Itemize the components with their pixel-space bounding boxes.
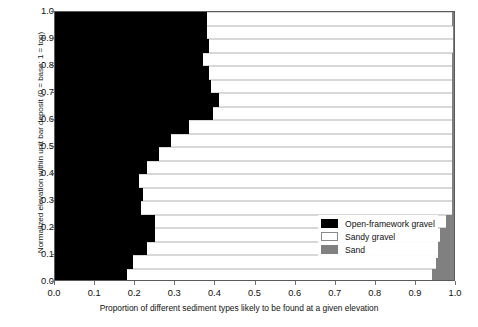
bar-row [55,53,454,67]
x-tick-label: 0.0 [32,288,76,298]
bar-row [55,120,454,134]
bar-segment-sandy-gravel [209,39,453,53]
bar-segment-open-framework-gravel [55,107,213,121]
legend-item-label: Open-framework gravel [345,219,435,229]
bar-row [55,201,454,215]
x-tick-label: 1.0 [433,288,477,298]
bar-segment-sandy-gravel [207,12,452,26]
bar-segment-sand [452,161,454,175]
bar-segment-sand [452,201,454,215]
y-tick-label: 0.0 [14,276,54,286]
bar-segment-open-framework-gravel [55,120,189,134]
bar-segment-sand [452,134,454,148]
bar-segment-sand [453,26,454,40]
bar-segment-sand [452,93,454,107]
x-axis-label: Proportion of different sediment types l… [0,303,478,313]
legend-swatch-icon [321,232,338,241]
bar-row [55,174,454,188]
bar-segment-open-framework-gravel [55,93,219,107]
bar-segment-sandy-gravel [213,107,452,121]
bar-segment-sand [452,188,454,202]
x-tick-mark [335,281,336,285]
bar-segment-sandy-gravel [139,174,452,188]
y-tick-label: 0.4 [14,168,54,178]
bar-segment-open-framework-gravel [55,134,171,148]
bar-segment-open-framework-gravel [55,39,209,53]
bar-segment-open-framework-gravel [55,242,147,256]
bar-segment-open-framework-gravel [55,161,147,175]
bar-segment-sand [452,107,454,121]
x-tick-mark [174,281,175,285]
bar-row [55,107,454,121]
bar-segment-sandy-gravel [219,93,452,107]
x-tick-mark [214,281,215,285]
bar-segment-sandy-gravel [203,53,452,67]
bar-segment-sandy-gravel [127,269,432,282]
bar-segment-open-framework-gravel [55,188,143,202]
x-tick-label: 0.8 [353,288,397,298]
y-tick-label: 0.6 [14,114,54,124]
bar-segment-open-framework-gravel [55,12,207,26]
x-tick-mark [134,281,135,285]
x-tick-mark [375,281,376,285]
bar-segment-sandy-gravel [207,26,453,40]
x-tick-mark [94,281,95,285]
bar-row [55,269,454,282]
x-tick-label: 0.4 [192,288,236,298]
bar-segment-open-framework-gravel [55,26,207,40]
bar-segment-sand [452,53,454,67]
x-tick-mark [455,281,456,285]
bar-segment-open-framework-gravel [55,269,127,282]
bar-segment-sand [452,12,454,26]
legend-item-label: Sand [345,245,365,255]
legend-swatch-icon [321,245,338,254]
y-tick-label: 0.3 [14,195,54,205]
y-tick-label: 0.2 [14,222,54,232]
bar-segment-open-framework-gravel [55,53,203,67]
legend-item: Sand [321,243,435,256]
bar-segment-sandy-gravel [209,66,452,80]
bar-row [55,39,454,53]
bar-row [55,80,454,94]
bar-segment-sand [440,228,454,242]
bar-segment-sand [452,120,454,134]
x-tick-label: 0.2 [112,288,156,298]
chart-legend: Open-framework gravelSandy gravelSand [318,215,438,258]
x-tick-label: 0.5 [233,288,277,298]
bar-segment-sandy-gravel [159,147,452,161]
bar-row [55,66,454,80]
bar-segment-sand [453,39,454,53]
y-tick-label: 0.5 [14,141,54,151]
bar-row [55,26,454,40]
x-tick-label: 0.6 [273,288,317,298]
y-tick-label: 1.0 [14,6,54,16]
bar-row [55,188,454,202]
bar-row [55,147,454,161]
bar-row [55,12,454,26]
bar-segment-open-framework-gravel [55,147,159,161]
x-tick-mark [295,281,296,285]
legend-item-label: Sandy gravel [345,232,395,242]
bar-segment-open-framework-gravel [55,80,211,94]
bar-segment-sand [452,80,454,94]
x-tick-label: 0.9 [393,288,437,298]
bar-segment-sand [438,242,454,256]
bar-segment-open-framework-gravel [55,174,139,188]
x-tick-mark [255,281,256,285]
legend-item: Open-framework gravel [321,217,435,230]
bar-segment-sandy-gravel [211,80,452,94]
y-tick-label: 0.1 [14,249,54,259]
bar-segment-sand [436,255,454,269]
bar-segment-sand [452,147,454,161]
legend-swatch-icon [321,219,338,228]
bar-segment-sandy-gravel [143,188,452,202]
bar-segment-sand [446,215,454,229]
bar-segment-sand [432,269,454,282]
y-tick-label: 0.7 [14,87,54,97]
legend-item: Sandy gravel [321,230,435,243]
bar-segment-sand [452,174,454,188]
bar-segment-sand [452,66,454,80]
bar-segment-open-framework-gravel [55,66,209,80]
bar-segment-sandy-gravel [147,161,452,175]
x-tick-label: 0.1 [72,288,116,298]
